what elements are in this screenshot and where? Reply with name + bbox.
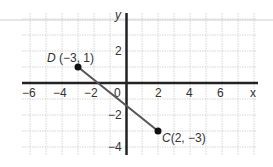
y-tick-2: 2 — [115, 44, 122, 58]
point-d-label: D (−3, 1) — [47, 51, 94, 65]
point-c-label: C(2, −3) — [162, 131, 206, 145]
y-tick-neg4: −4 — [108, 140, 122, 154]
x-tick-neg6: −6 — [22, 86, 36, 100]
point-c-name: C — [162, 131, 171, 145]
x-tick-neg2: −2 — [84, 86, 98, 100]
y-axis-label: y — [114, 8, 122, 22]
origin-label: 0 — [114, 86, 121, 100]
point-d-coords: (−3, 1) — [56, 51, 94, 65]
x-tick-4: 4 — [186, 86, 193, 100]
point-c — [155, 128, 162, 135]
point-d-name: D — [47, 51, 56, 65]
coordinate-plane: −6 −4 −2 0 2 4 6 x y 2 −2 −4 D (−3, 1) C… — [0, 0, 273, 167]
point-c-coords: (2, −3) — [171, 131, 206, 145]
y-tick-neg2: −2 — [108, 108, 122, 122]
x-axis-label: x — [250, 86, 256, 100]
x-tick-neg4: −4 — [53, 86, 67, 100]
x-tick-2: 2 — [155, 86, 162, 100]
x-tick-6: 6 — [217, 86, 224, 100]
